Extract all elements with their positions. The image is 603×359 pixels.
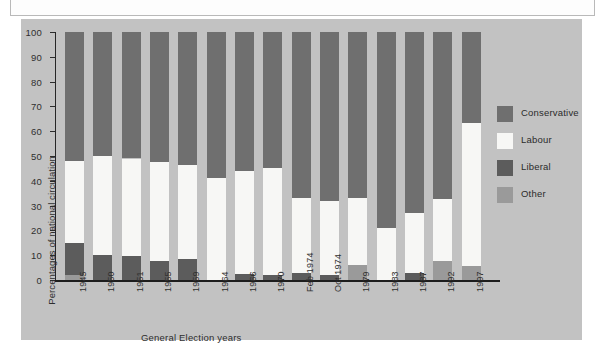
y-tick-label-90: 90 [31,51,42,62]
x-tick-label-text: 1959 [191,286,201,292]
bar-segment-conservative [178,32,197,165]
y-tick-0: 0 [50,280,55,281]
x-tick-label: 1955 [150,286,169,296]
bar-column [207,32,226,280]
x-tick-label-text: 1945 [78,286,88,292]
x-tick-label-text: 1983 [390,286,400,292]
legend-swatch-liberal [497,160,513,176]
x-tick-label: 1950 [93,286,112,296]
bar-column [320,32,339,280]
x-tick-label: 1964 [207,286,226,296]
bar-segment-conservative [348,32,367,198]
x-tick-label: Feb 1974 [292,286,311,296]
bar-segment-labour [150,162,169,261]
legend-item-other[interactable]: Other [497,186,592,208]
bar-column [150,32,169,280]
y-tick-label-80: 80 [31,76,42,87]
bar-column [122,32,141,280]
legend-swatch-labour [497,133,513,149]
x-tick-label: 1983 [377,286,396,296]
bar-segment-labour [65,161,84,243]
chart-legend: ConservativeLabourLiberalOther [497,105,592,213]
y-tick-label-40: 40 [31,175,42,186]
bar-segment-conservative [65,32,84,161]
x-tick-label: 1992 [433,286,452,296]
bar-column [433,32,452,280]
y-tick-label-30: 30 [31,200,42,211]
chart-panel: Percentages of national circulation 0102… [21,19,582,340]
x-tick-label-text: 1955 [163,286,173,292]
bar-column [405,32,424,280]
bar-segment-conservative [235,32,254,171]
y-tick-label-50: 50 [31,151,42,162]
y-tick-label-100: 100 [26,27,42,38]
chart-page: Percentages of national circulation 0102… [0,0,603,359]
bar-segment-labour [235,171,254,274]
bar-segment-conservative [150,32,169,162]
x-tick-label: 1970 [263,286,282,296]
x-tick-label-text: 1964 [220,286,230,292]
x-tick-label-text: 1979 [361,286,371,292]
x-tick-label: Oct 1974 [320,286,339,296]
top-border-strip [10,0,595,16]
bar-segment-labour [93,156,112,255]
x-tick-label: 1951 [122,286,141,296]
legend-label: Other [521,188,546,199]
x-tick-label: 1979 [348,286,367,296]
bar-segment-conservative [207,32,226,178]
legend-label: Liberal [521,161,551,172]
x-tick-label: 1945 [65,286,84,296]
bar-segment-labour [263,168,282,275]
legend-swatch-other [497,187,513,203]
x-tick-label-text: 1992 [446,286,456,292]
x-tick-label: 1987 [405,286,424,296]
bar-series-group [55,32,490,280]
legend-item-conservative[interactable]: Conservative [497,105,592,127]
bar-segment-labour [462,123,481,267]
bar-segment-conservative [462,32,481,123]
x-tick-label-text: 1997 [475,286,485,292]
bar-column [377,32,396,280]
bar-segment-conservative [93,32,112,156]
y-tick-label-20: 20 [31,225,42,236]
x-tick-label-text: Oct 1974 [333,286,343,292]
bar-column [178,32,197,280]
x-tick-label-text: Feb 1974 [305,286,315,292]
x-tick-label: 1966 [235,286,254,296]
legend-item-liberal[interactable]: Liberal [497,159,592,181]
bar-column [462,32,481,280]
y-tick-label-10: 10 [31,250,42,261]
legend-swatch-conservative [497,106,513,122]
y-tick-label-70: 70 [31,101,42,112]
x-tick-label-text: 1951 [135,286,145,292]
bar-segment-conservative [433,32,452,199]
x-tick-label-text: 1950 [106,286,116,292]
bar-segment-labour [348,198,367,265]
bar-column [235,32,254,280]
bar-segment-labour [178,165,197,259]
y-tick-label-0: 0 [37,275,42,286]
bar-segment-labour [122,159,141,257]
bar-segment-conservative [320,32,339,201]
legend-label: Labour [521,134,552,145]
x-tick-label: 1997 [462,286,481,296]
x-tick-label-text: 1966 [248,286,258,292]
bar-column [65,32,84,280]
plot-area: Percentages of national circulation 0102… [55,32,490,280]
x-tick-label-text: 1970 [276,286,286,292]
x-axis-title: General Election years [141,332,242,343]
bar-column [93,32,112,280]
bar-column [348,32,367,280]
bar-segment-conservative [292,32,311,198]
bar-segment-conservative [405,32,424,213]
legend-item-labour[interactable]: Labour [497,132,592,154]
bar-column [292,32,311,280]
bar-segment-labour [433,199,452,261]
y-tick-label-60: 60 [31,126,42,137]
bar-segment-conservative [122,32,141,158]
bar-column [263,32,282,280]
legend-label: Conservative [521,107,579,118]
bar-segment-conservative [377,32,396,228]
bar-segment-conservative [263,32,282,168]
x-tick-label-text: 1987 [418,286,428,292]
